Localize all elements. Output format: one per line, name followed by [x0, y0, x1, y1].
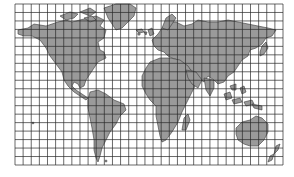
island-new-zealand	[268, 144, 280, 162]
map-canvas	[0, 0, 294, 177]
region-india	[204, 78, 214, 96]
arctic-islands	[60, 8, 96, 22]
island-madagascar	[182, 114, 190, 130]
world-map	[0, 0, 294, 177]
island-dot	[138, 33, 140, 35]
island-dot	[105, 160, 107, 162]
landmasses	[18, 4, 280, 162]
continent-greenland	[104, 4, 136, 30]
